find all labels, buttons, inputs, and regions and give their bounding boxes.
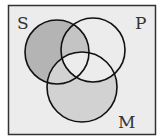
venn-diagram: S P M (0, 0, 163, 139)
label-m: M (118, 112, 135, 132)
label-p: P (135, 13, 146, 33)
label-s: S (17, 13, 29, 33)
